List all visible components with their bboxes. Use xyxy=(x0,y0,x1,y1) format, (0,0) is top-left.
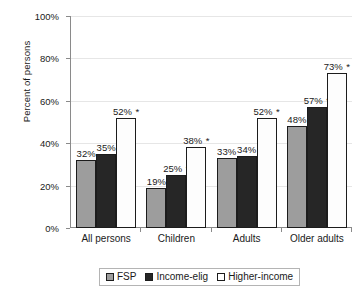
legend-label: FSP xyxy=(117,271,136,282)
bar: 19% xyxy=(146,188,166,228)
plot-area: 0%20%40%60%80%100% 32%35%52% *19%25% *38… xyxy=(70,16,352,228)
legend-swatch-icon xyxy=(145,273,153,281)
legend-label: Higher-income xyxy=(228,271,293,282)
legend-swatch-icon xyxy=(106,273,114,281)
significance-marker: * xyxy=(133,106,139,117)
significance-marker: * xyxy=(273,106,279,117)
legend-swatch-icon xyxy=(217,273,225,281)
significance-marker: * xyxy=(344,61,350,72)
bar-value-label: 19% xyxy=(147,176,166,187)
bar-value-label: 52% * xyxy=(113,106,139,117)
bar-group: 33%34%52% * xyxy=(212,16,282,228)
bar: 34% xyxy=(237,156,257,228)
bar: 38% * xyxy=(186,147,206,228)
y-axis-tick: 60% xyxy=(66,101,70,102)
bar: 57% * xyxy=(307,107,327,228)
chart-legend: FSPIncome-eligHigher-income xyxy=(99,268,300,286)
x-axis-category-label: Older adults xyxy=(290,233,344,244)
y-axis-tick-label: 60% xyxy=(40,95,59,106)
y-axis-tick: 100% xyxy=(66,16,70,17)
bar: 52% * xyxy=(116,118,136,228)
y-axis-tick: 80% xyxy=(66,58,70,59)
x-axis-category-label: All persons xyxy=(81,233,130,244)
legend-item[interactable]: Income-elig xyxy=(145,271,208,282)
bar: 25% * xyxy=(166,175,186,228)
bar-groups: 32%35%52% *19%25% *38% *33%34%52% *48%57… xyxy=(71,16,352,228)
bar: 48% xyxy=(287,126,307,228)
significance-marker: * xyxy=(203,135,209,146)
bar: 35% xyxy=(96,154,116,228)
bar-value-label: 38% * xyxy=(183,135,209,146)
bar-value-label: 35% xyxy=(97,142,116,153)
bar: 32% xyxy=(76,160,96,228)
legend-item[interactable]: Higher-income xyxy=(217,271,293,282)
x-axis-category-labels: All personsChildrenAdultsOlder adults xyxy=(71,233,352,249)
bar-group: 19%25% *38% * xyxy=(141,16,211,228)
x-axis-tick xyxy=(140,228,141,232)
y-axis-tick: 0% xyxy=(66,228,70,229)
y-axis-tick-label: 40% xyxy=(40,138,59,149)
x-axis-tick xyxy=(281,228,282,232)
y-axis-tick-label: 20% xyxy=(40,180,59,191)
y-axis-tick: 20% xyxy=(66,186,70,187)
bar-group: 48%57% *73% * xyxy=(282,16,352,228)
bar: 33% xyxy=(217,158,237,228)
bar-value-label: 33% xyxy=(217,146,236,157)
legend-label: Income-elig xyxy=(156,271,208,282)
bar-value-label: 73% * xyxy=(324,61,350,72)
bar: 73% * xyxy=(327,73,347,228)
y-axis-tick-label: 0% xyxy=(45,223,59,234)
bar: 52% * xyxy=(257,118,277,228)
bar-chart: Percent of persons 0%20%40%60%80%100% 32… xyxy=(0,0,359,298)
x-axis-category-label: Children xyxy=(158,233,195,244)
bar-value-label: 48% xyxy=(287,114,306,125)
x-axis-tick xyxy=(351,228,352,232)
bar-value-label: 34% xyxy=(237,144,256,155)
y-axis-tick-label: 80% xyxy=(40,53,59,64)
y-axis-title: Percent of persons xyxy=(21,12,32,152)
x-axis-category-label: Adults xyxy=(233,233,261,244)
legend-item[interactable]: FSP xyxy=(106,271,136,282)
bar-value-label: 52% * xyxy=(253,106,279,117)
bar-group: 32%35%52% * xyxy=(71,16,141,228)
y-axis-tick-label: 100% xyxy=(35,11,59,22)
x-axis-tick xyxy=(211,228,212,232)
y-axis-tick: 40% xyxy=(66,143,70,144)
bar-value-label: 32% xyxy=(77,148,96,159)
